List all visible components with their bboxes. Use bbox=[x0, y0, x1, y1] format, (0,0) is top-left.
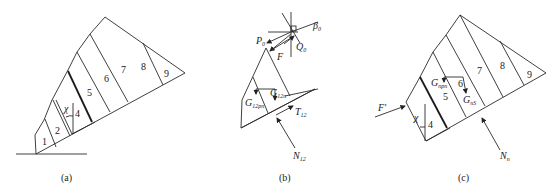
slice-label-4: 4 bbox=[75, 108, 80, 119]
angle-chi-label: χ bbox=[63, 103, 69, 114]
slice-label-8: 8 bbox=[141, 61, 146, 72]
slice-divider bbox=[143, 43, 163, 85]
slice-label-5: 5 bbox=[443, 91, 448, 102]
figure-canvas: 1 2 4 5 6 7 8 9 χ (a) bbox=[0, 0, 550, 186]
t12-arrow bbox=[276, 106, 293, 115]
caption-b: (b) bbox=[279, 172, 291, 184]
base-extension bbox=[285, 89, 318, 96]
slice-label-5: 5 bbox=[87, 87, 92, 98]
force-triangle bbox=[270, 36, 294, 51]
slice-label-4: 4 bbox=[428, 119, 433, 130]
slice-label-2: 2 bbox=[55, 125, 60, 136]
g12pn-label: G12pn bbox=[245, 97, 264, 109]
q0-label: Q0 bbox=[296, 41, 306, 53]
g12pn-arrow bbox=[256, 89, 268, 94]
f-prime-label: F' bbox=[377, 102, 387, 113]
slice-label-8: 8 bbox=[500, 60, 505, 71]
slice-label-7: 7 bbox=[121, 64, 126, 75]
caption-a: (a) bbox=[61, 172, 72, 184]
slice-label-9: 9 bbox=[527, 69, 532, 80]
panel-c: 4 5 6 7 8 9 χ F' Gnpn GnS Nn (c) bbox=[375, 15, 546, 184]
slice-divider bbox=[460, 15, 503, 97]
slice-label-1: 1 bbox=[42, 136, 47, 147]
slice-label-7: 7 bbox=[477, 65, 482, 76]
slope-profile bbox=[406, 15, 546, 141]
g12n-label: G12n bbox=[270, 87, 286, 99]
f-label: F bbox=[276, 51, 284, 62]
beta0-label: β0 bbox=[312, 20, 321, 32]
slice-label-9: 9 bbox=[164, 68, 169, 79]
n12-label: N12 bbox=[292, 150, 306, 162]
panel-a: 1 2 4 5 6 7 8 9 χ (a) bbox=[16, 17, 185, 184]
caption-c: (c) bbox=[458, 172, 469, 184]
angle-arc bbox=[66, 116, 73, 117]
t12-label: T12 bbox=[295, 106, 307, 118]
slice-label-6: 6 bbox=[458, 78, 463, 89]
panel-b: P0 Q0 F β0 G12n G12pn T12 N12 (b) bbox=[241, 12, 321, 184]
angle-chi-label: χ bbox=[413, 112, 419, 123]
nn-label: Nn bbox=[499, 150, 510, 162]
gns-label: GnS bbox=[463, 94, 476, 106]
gnpn-label: Gnpn bbox=[431, 77, 447, 89]
p0-label: P0 bbox=[255, 35, 265, 47]
slice-label-6: 6 bbox=[104, 73, 109, 84]
n12-arrow bbox=[277, 118, 295, 148]
nn-arrow bbox=[482, 118, 500, 150]
